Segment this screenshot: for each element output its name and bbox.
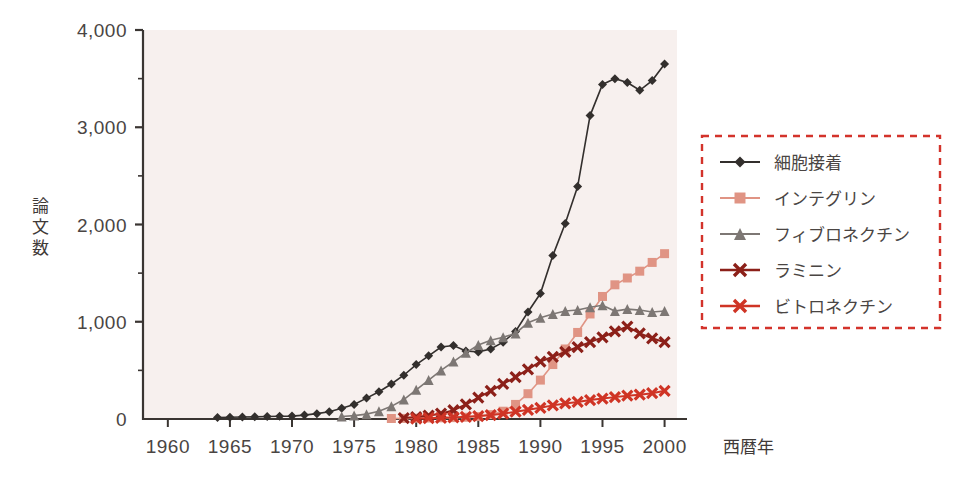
x-axis-title: 西暦年 (723, 438, 774, 457)
data-point (598, 292, 607, 301)
x-tick-label: 1985 (456, 436, 500, 457)
y-axis-title-char: 論 (32, 197, 49, 216)
plot-area-background (143, 30, 677, 419)
data-point (635, 267, 644, 276)
data-point (387, 414, 396, 423)
legend-label: 細胞接着 (774, 154, 842, 173)
x-axis-tick-labels: 196019651970197519801985199019952000 (146, 436, 687, 457)
x-tick-label: 1960 (146, 436, 190, 457)
x-tick-label: 1995 (580, 436, 624, 457)
y-axis-title-char: 数 (32, 239, 49, 258)
legend-label: インテグリン (774, 190, 876, 209)
publications-line-chart: 196019651970197519801985199019952000 01,… (0, 0, 955, 490)
x-tick-label: 1975 (332, 436, 376, 457)
y-tick-label: 2,000 (77, 215, 127, 236)
data-point (523, 389, 532, 398)
data-point (610, 280, 619, 289)
y-tick-label: 0 (116, 409, 127, 430)
data-point (573, 328, 582, 337)
x-tick-label: 1980 (394, 436, 438, 457)
legend-label: ラミニン (774, 262, 842, 281)
legend-swatch-marker (735, 193, 746, 204)
x-tick-label: 1970 (270, 436, 314, 457)
x-tick-label: 2000 (642, 436, 686, 457)
x-tick-label: 1965 (208, 436, 252, 457)
y-axis-title-char: 文 (32, 218, 49, 237)
data-point (623, 273, 632, 282)
y-tick-label: 1,000 (77, 312, 127, 333)
x-tick-label: 1990 (518, 436, 562, 457)
legend-label: ビトロネクチン (774, 298, 893, 317)
y-tick-label: 3,000 (77, 117, 127, 138)
data-point (536, 376, 545, 385)
legend-label: フィブロネクチン (774, 225, 910, 245)
data-point (660, 249, 669, 258)
x-axis-title: 西暦年 (723, 438, 774, 457)
data-point (648, 258, 657, 267)
y-axis-title: 論文数 (32, 197, 49, 258)
y-tick-label: 4,000 (77, 20, 127, 41)
